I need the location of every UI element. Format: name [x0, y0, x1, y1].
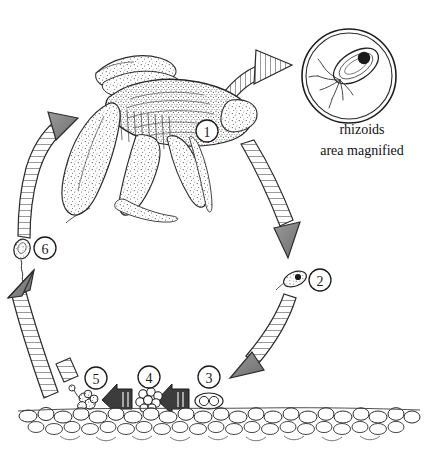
diagram-canvas: rhizoids area magnified	[0, 0, 431, 454]
caption-rhizoids: rhizoids	[339, 122, 384, 137]
stage-label-5: 5	[93, 372, 100, 387]
stage-marker-4: 4	[138, 366, 160, 388]
stage-3-two-celled	[195, 393, 223, 409]
arrow-stage5-detach	[56, 358, 78, 382]
stage-label-6: 6	[42, 242, 49, 257]
life-cycle-diagram: rhizoids area magnified	[0, 0, 431, 454]
stage-label-2: 2	[317, 274, 324, 289]
caption-area-magnified: area magnified	[320, 143, 404, 158]
germ-tube	[21, 260, 23, 282]
pebble-substrate	[18, 408, 420, 441]
arrow-stage2-to-stage3	[230, 294, 296, 378]
stage-marker-3: 3	[198, 366, 220, 388]
thallus-gametophyte	[62, 56, 257, 223]
stage-marker-1: 1	[196, 120, 218, 142]
stage-2-spore	[276, 268, 309, 290]
stage-marker-5: 5	[85, 367, 107, 389]
cell-nucleus	[358, 52, 370, 64]
stage-marker-2: 2	[309, 269, 331, 291]
arrow-stage5-to-stage6	[8, 270, 58, 398]
arrow-stage1-to-stage2	[241, 140, 300, 258]
stage-label-4: 4	[146, 371, 153, 386]
stage-label-1: 1	[204, 125, 211, 140]
magnified-area-circle	[302, 29, 396, 123]
stage-marker-6: 6	[34, 237, 56, 259]
stage-label-3: 3	[206, 371, 213, 386]
